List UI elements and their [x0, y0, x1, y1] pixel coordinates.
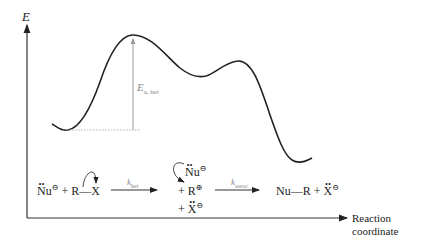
reactants: Nu⊖ + R—X: [37, 185, 100, 197]
product-x: X: [323, 185, 332, 197]
products: Nu—R + X⊖: [276, 185, 339, 197]
k-het-subscript: het: [131, 183, 138, 189]
activation-energy-symbol: E: [137, 81, 144, 93]
substrate-r: R: [71, 184, 79, 198]
intermediate-x-charge: ⊖: [196, 201, 203, 210]
energy-diagram-canvas: [0, 0, 422, 248]
energy-curve: [52, 35, 312, 162]
plus-sign: +: [61, 184, 68, 198]
k-assoc-label: kassoc: [231, 178, 248, 187]
plus-sign-2: +: [314, 184, 321, 198]
activation-energy-label: Ea, het: [137, 82, 159, 93]
intermediate-x: X: [188, 203, 197, 215]
intermediate-nucleophile: Nu⊖: [185, 166, 206, 178]
k-het-label: khet: [127, 178, 138, 187]
intermediate-nu: Nu: [185, 166, 200, 178]
y-axis-label: E: [22, 10, 30, 23]
nucleophile-charge: ⊖: [52, 183, 59, 192]
activation-energy-subscript: a, het: [144, 88, 159, 96]
intermediate-x-prefix: +: [178, 202, 188, 216]
electron-push-arrow-nu: [173, 163, 184, 182]
product-x-charge: ⊖: [332, 183, 339, 192]
k-assoc-subscript: assoc: [235, 183, 248, 189]
leaving-group-x: X: [91, 184, 100, 198]
product-nu-r: Nu—R: [276, 184, 311, 198]
intermediate-nu-charge: ⊖: [200, 164, 207, 173]
r-x-bond: —: [79, 184, 91, 198]
nucleophile: Nu: [37, 185, 52, 197]
x-axis-label-line1: Reaction: [352, 213, 391, 224]
x-axis-label-line2: coordinate: [352, 226, 398, 237]
carbocation-charge: ⊕: [196, 183, 203, 192]
intermediate-leaving-group: + X⊖: [178, 203, 203, 215]
